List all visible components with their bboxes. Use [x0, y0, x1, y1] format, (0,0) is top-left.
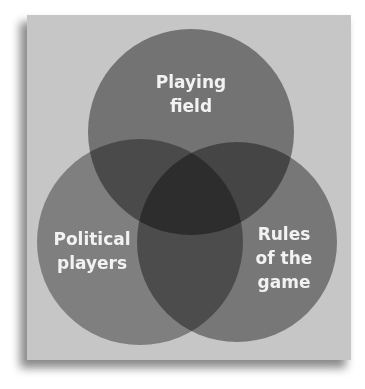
label-political-players-line-1: Political	[42, 227, 142, 251]
label-rules-of-the-game: Rules of the game	[249, 222, 319, 294]
venn-diagram	[27, 15, 351, 360]
label-rules-line-3: game	[249, 270, 319, 294]
label-rules-line-2: of the	[249, 246, 319, 270]
label-political-players-line-2: players	[42, 251, 142, 275]
label-playing-field-line-1: Playing	[141, 70, 241, 94]
venn-diagram-panel: Playing field Political players Rules of…	[27, 15, 351, 360]
label-playing-field: Playing field	[141, 70, 241, 118]
label-rules-line-1: Rules	[249, 222, 319, 246]
label-political-players: Political players	[42, 227, 142, 275]
label-playing-field-line-2: field	[141, 94, 241, 118]
